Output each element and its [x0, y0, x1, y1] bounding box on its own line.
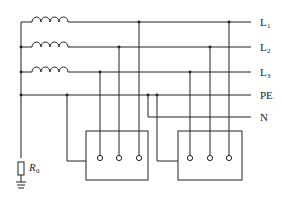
load-1-terminal — [97, 155, 102, 160]
circuit-diagram: R 0 L 1 L 2 L 3 PE N — [0, 0, 282, 208]
junction-dot — [138, 21, 141, 24]
winding-l1 — [21, 17, 68, 22]
junction-dot — [209, 46, 212, 49]
resistor-icon — [18, 162, 24, 175]
resistor-subscript: 0 — [36, 167, 40, 175]
label-l3: L — [260, 66, 267, 78]
junction-dot — [189, 71, 192, 74]
load-1-terminal — [136, 155, 141, 160]
winding-l3 — [21, 67, 68, 72]
junction-dot — [228, 21, 231, 24]
junction-dot — [66, 94, 69, 97]
junction-dot — [20, 71, 23, 74]
label-l2-sub: 2 — [267, 47, 271, 55]
junction-dot — [147, 94, 150, 97]
junction-dot — [20, 94, 23, 97]
load-2-terminal — [187, 155, 192, 160]
load-2-terminal — [226, 155, 231, 160]
label-n: N — [260, 111, 268, 123]
winding-l2 — [21, 42, 68, 47]
load-1-terminal — [116, 155, 121, 160]
load-2-terminal — [207, 155, 212, 160]
label-l2: L — [260, 41, 267, 53]
label-l1-sub: 1 — [267, 22, 271, 30]
label-pe: PE — [260, 89, 273, 101]
junction-dot — [118, 46, 121, 49]
line-n — [148, 95, 251, 117]
junction-dot — [156, 94, 159, 97]
load-1-pe-wire — [67, 95, 86, 161]
label-l1: L — [260, 16, 267, 28]
label-l3-sub: 3 — [267, 72, 271, 80]
junction-dot — [20, 46, 23, 49]
junction-dot — [99, 71, 102, 74]
ground-icon — [16, 182, 26, 188]
resistor-label: R — [28, 161, 36, 173]
load-2-pe-wire — [157, 95, 178, 161]
